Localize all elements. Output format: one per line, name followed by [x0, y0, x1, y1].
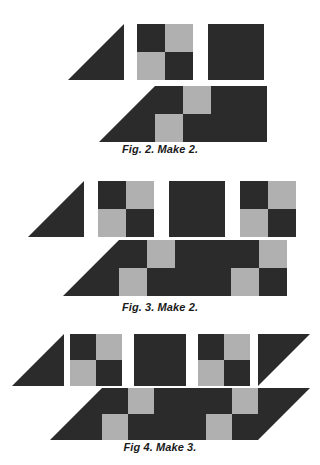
patch-cell-top-left: [98, 181, 126, 209]
patch-cell-top-left: [102, 388, 128, 414]
patch-cell-top-right: [259, 240, 287, 268]
four-patch-unit: [198, 334, 250, 386]
patch-cell-bottom-left: [98, 209, 126, 237]
fig3-piece-four-patch-2: [240, 181, 296, 237]
triangle-icon: [63, 240, 119, 296]
fig4-assembly-triangle: [50, 388, 102, 440]
fig4-assembly-four-patch-2: [206, 388, 258, 440]
patch-cell-bottom-right: [232, 414, 258, 440]
patch-cell-bottom-right: [126, 209, 154, 237]
fig4-piece-triangle: [12, 334, 64, 386]
triangle-icon: [28, 181, 84, 237]
patch-cell-bottom-right: [259, 268, 287, 296]
patch-cell-bottom-left: [198, 360, 224, 386]
plain-square-unit: [134, 334, 186, 386]
triangle-icon: [50, 388, 102, 440]
plain-square-unit: [175, 240, 231, 296]
patch-cell-bottom-left: [70, 360, 96, 386]
patch-cell-bottom-left: [119, 268, 147, 296]
patch-cell-bottom-right: [147, 268, 175, 296]
fig3-assembly-triangle: [63, 240, 119, 296]
fig3-piece-row: [0, 181, 320, 237]
plain-square-unit: [169, 181, 225, 237]
fig3-assembly-row: [0, 240, 320, 296]
patch-cell-top-left: [119, 240, 147, 268]
plain-square-unit: [154, 388, 206, 440]
fig4-caption: Fig 4. Make 3.: [0, 441, 320, 453]
fig3-assembly-plain-square: [175, 240, 231, 296]
patch-cell-bottom-left: [102, 414, 128, 440]
fig4-piece-four-patch-1: [70, 334, 122, 386]
triangle-mirrored-icon: [258, 334, 310, 386]
fig4-assembly-plain-square: [154, 388, 206, 440]
patch-cell-top-right: [224, 334, 250, 360]
fig4-assembly-four-patch-1: [102, 388, 154, 440]
patch-cell-bottom-right: [96, 360, 122, 386]
four-patch-unit: [206, 388, 258, 440]
triangle-icon: [12, 334, 64, 386]
patch-cell-bottom-left: [231, 268, 259, 296]
triangle-mirrored-icon: [258, 388, 310, 440]
fig3-piece-plain-square: [169, 181, 225, 237]
patch-cell-top-right: [232, 388, 258, 414]
fig3-piece-four-patch-1: [98, 181, 154, 237]
fig4-piece-row: [0, 334, 320, 386]
figure-4: Fig 4. Make 3.: [0, 0, 320, 145]
fig4-piece-plain-square: [134, 334, 186, 386]
fig4-assembly-row: [0, 388, 320, 440]
patch-cell-bottom-right: [128, 414, 154, 440]
four-patch-unit: [98, 181, 154, 237]
patch-cell-bottom-right: [224, 360, 250, 386]
patch-cell-top-left: [231, 240, 259, 268]
patch-cell-top-left: [240, 181, 268, 209]
patch-cell-top-left: [198, 334, 224, 360]
fig3-caption: Fig. 3. Make 2.: [0, 301, 320, 313]
patch-cell-top-left: [70, 334, 96, 360]
patch-cell-bottom-left: [240, 209, 268, 237]
fig4-piece-four-patch-2: [198, 334, 250, 386]
patch-cell-top-right: [128, 388, 154, 414]
patch-cell-bottom-left: [206, 414, 232, 440]
patch-cell-top-right: [126, 181, 154, 209]
patch-cell-bottom-right: [268, 209, 296, 237]
four-patch-unit: [102, 388, 154, 440]
four-patch-unit: [231, 240, 287, 296]
patch-cell-top-right: [96, 334, 122, 360]
patch-cell-top-right: [268, 181, 296, 209]
fig3-assembly-four-patch-1: [119, 240, 175, 296]
fig4-assembly-triangle-mirrored: [258, 388, 310, 440]
four-patch-unit: [240, 181, 296, 237]
four-patch-unit: [119, 240, 175, 296]
four-patch-unit: [70, 334, 122, 386]
patch-cell-top-right: [147, 240, 175, 268]
fig3-assembly-four-patch-2: [231, 240, 287, 296]
patch-cell-top-left: [206, 388, 232, 414]
fig4-piece-triangle-mirrored: [258, 334, 310, 386]
fig3-piece-triangle: [28, 181, 84, 237]
